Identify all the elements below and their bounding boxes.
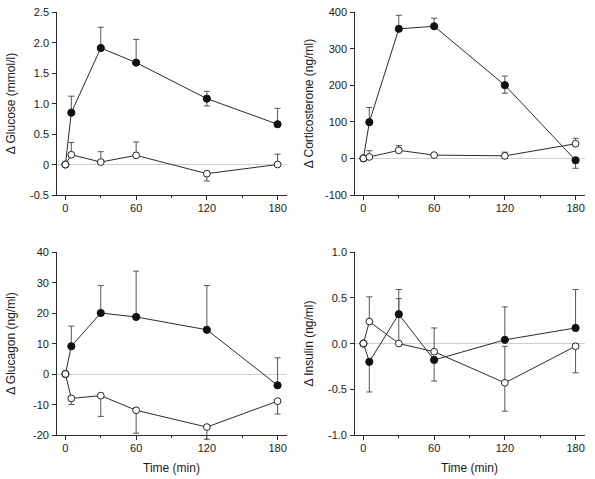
x-tick-label-glucose-1: 60 bbox=[130, 202, 142, 214]
y-tick-label-glucose-4: 1.5 bbox=[34, 67, 49, 79]
y-tick-label-insulin-0: -1.0 bbox=[328, 429, 347, 441]
x-tick-label-insulin-0: 0 bbox=[360, 442, 366, 454]
datapoint-insulin-open-4 bbox=[501, 379, 508, 386]
chart-svg-glucagon: -20-10010203040060120180Δ Glucagon (ng/m… bbox=[0, 240, 297, 479]
datapoint-insulin-open-0 bbox=[360, 340, 367, 347]
datapoint-glucose-filled-3 bbox=[133, 59, 140, 66]
y-tick-label-glucose-2: 0.5 bbox=[34, 128, 49, 140]
y-tick-label-glucose-0: -0.5 bbox=[30, 189, 49, 201]
datapoint-glucose-open-5 bbox=[274, 161, 281, 168]
datapoint-glucose-open-4 bbox=[203, 170, 210, 177]
x-tick-label-insulin-3: 180 bbox=[566, 442, 584, 454]
y-axis-title-glucose: Δ Glucose (mmol/l) bbox=[4, 53, 18, 154]
datapoint-glucagon-filled-2 bbox=[97, 309, 104, 316]
y-tick-label-glucagon-0: -20 bbox=[33, 429, 49, 441]
y-tick-label-corticosterone-2: 100 bbox=[329, 116, 347, 128]
x-tick-label-corticosterone-2: 120 bbox=[496, 202, 514, 214]
datapoint-glucagon-filled-4 bbox=[203, 326, 210, 333]
chart-svg-insulin: -1.0-0.50.00.51.0060120180Δ Insulin (ng/… bbox=[298, 240, 595, 479]
x-tick-label-glucagon-2: 120 bbox=[198, 442, 216, 454]
x-tick-label-glucose-2: 120 bbox=[198, 202, 216, 214]
y-tick-label-insulin-2: 0.0 bbox=[332, 338, 347, 350]
y-tick-label-glucagon-1: -10 bbox=[33, 399, 49, 411]
y-tick-label-glucagon-2: 0 bbox=[43, 368, 49, 380]
datapoint-insulin-filled-3 bbox=[431, 356, 438, 363]
x-tick-label-glucagon-1: 60 bbox=[130, 442, 142, 454]
datapoint-corticosterone-filled-5 bbox=[572, 157, 579, 164]
datapoint-glucagon-open-5 bbox=[274, 398, 281, 405]
x-tick-label-glucagon-3: 180 bbox=[268, 442, 286, 454]
datapoint-corticosterone-filled-1 bbox=[366, 119, 373, 126]
datapoint-glucagon-open-4 bbox=[203, 424, 210, 431]
y-tick-label-glucagon-3: 10 bbox=[37, 338, 49, 350]
datapoint-insulin-open-2 bbox=[395, 340, 402, 347]
y-tick-label-insulin-3: 0.5 bbox=[332, 292, 347, 304]
datapoint-glucose-open-3 bbox=[133, 152, 140, 159]
datapoint-glucose-open-1 bbox=[68, 151, 75, 158]
datapoint-glucagon-filled-3 bbox=[133, 313, 140, 320]
x-tick-label-insulin-2: 120 bbox=[496, 442, 514, 454]
y-tick-label-glucagon-5: 30 bbox=[37, 277, 49, 289]
datapoint-glucagon-open-2 bbox=[97, 392, 104, 399]
y-tick-label-glucose-6: 2.5 bbox=[34, 6, 49, 18]
x-tick-label-glucagon-0: 0 bbox=[62, 442, 68, 454]
y-tick-label-glucose-5: 2.0 bbox=[34, 37, 49, 49]
x-axis-title-glucagon: Time (min) bbox=[143, 461, 200, 475]
datapoint-insulin-open-5 bbox=[572, 343, 579, 350]
datapoint-insulin-filled-2 bbox=[395, 311, 402, 318]
x-axis-title-insulin: Time (min) bbox=[441, 461, 498, 475]
y-tick-label-glucagon-6: 40 bbox=[37, 246, 49, 258]
y-tick-label-corticosterone-1: 0 bbox=[341, 152, 347, 164]
datapoint-glucose-filled-4 bbox=[203, 95, 210, 102]
datapoint-insulin-filled-1 bbox=[366, 358, 373, 365]
y-tick-label-insulin-4: 1.0 bbox=[332, 246, 347, 258]
chart-panel-insulin: -1.0-0.50.00.51.0060120180Δ Insulin (ng/… bbox=[298, 240, 595, 479]
x-tick-label-glucose-0: 0 bbox=[62, 202, 68, 214]
datapoint-glucose-filled-1 bbox=[68, 109, 75, 116]
x-tick-label-corticosterone-1: 60 bbox=[428, 202, 440, 214]
figure-panel-grid: -0.500.51.01.52.02.5060120180Δ Glucose (… bbox=[0, 0, 595, 479]
x-tick-label-corticosterone-3: 180 bbox=[566, 202, 584, 214]
datapoint-glucose-open-2 bbox=[97, 159, 104, 166]
datapoint-corticosterone-filled-3 bbox=[431, 23, 438, 30]
datapoint-glucose-open-0 bbox=[62, 161, 69, 168]
y-tick-label-corticosterone-4: 300 bbox=[329, 43, 347, 55]
datapoint-glucagon-open-0 bbox=[62, 371, 69, 378]
y-tick-label-corticosterone-0: -100 bbox=[325, 189, 347, 201]
datapoint-insulin-open-3 bbox=[431, 348, 438, 355]
y-axis-title-glucagon: Δ Glucagon (ng/ml) bbox=[4, 292, 18, 395]
datapoint-glucagon-filled-1 bbox=[68, 343, 75, 350]
datapoint-insulin-filled-5 bbox=[572, 324, 579, 331]
x-tick-label-insulin-1: 60 bbox=[428, 442, 440, 454]
datapoint-corticosterone-open-1 bbox=[366, 154, 373, 161]
x-tick-label-corticosterone-0: 0 bbox=[360, 202, 366, 214]
y-tick-label-glucose-1: 0 bbox=[43, 159, 49, 171]
chart-panel-corticosterone: -1000100200300400060120180Δ Corticostero… bbox=[298, 0, 595, 239]
y-tick-label-corticosterone-3: 200 bbox=[329, 79, 347, 91]
chart-panel-glucagon: -20-10010203040060120180Δ Glucagon (ng/m… bbox=[0, 240, 297, 479]
series-line-glucose-filled bbox=[65, 48, 277, 165]
datapoint-corticosterone-open-5 bbox=[572, 140, 579, 147]
datapoint-insulin-open-1 bbox=[366, 318, 373, 325]
y-tick-label-glucose-3: 1.0 bbox=[34, 98, 49, 110]
series-line-glucagon-open bbox=[65, 374, 277, 427]
datapoint-glucagon-open-1 bbox=[68, 395, 75, 402]
x-tick-label-glucose-3: 180 bbox=[268, 202, 286, 214]
datapoint-glucose-filled-5 bbox=[274, 121, 281, 128]
datapoint-corticosterone-filled-2 bbox=[395, 25, 402, 32]
y-tick-label-corticosterone-5: 400 bbox=[329, 6, 347, 18]
datapoint-glucose-filled-2 bbox=[97, 44, 104, 51]
series-line-insulin-filled bbox=[363, 314, 575, 362]
y-axis-title-corticosterone: Δ Corticosterone (ng/ml) bbox=[302, 39, 316, 168]
chart-svg-corticosterone: -1000100200300400060120180Δ Corticostero… bbox=[298, 0, 595, 239]
datapoint-corticosterone-filled-4 bbox=[501, 82, 508, 89]
datapoint-glucagon-open-3 bbox=[133, 407, 140, 414]
chart-panel-glucose: -0.500.51.01.52.02.5060120180Δ Glucose (… bbox=[0, 0, 297, 239]
datapoint-corticosterone-open-2 bbox=[395, 147, 402, 154]
datapoint-corticosterone-open-4 bbox=[501, 152, 508, 159]
datapoint-corticosterone-open-3 bbox=[431, 152, 438, 159]
y-tick-label-glucagon-4: 20 bbox=[37, 307, 49, 319]
series-line-insulin-open bbox=[363, 322, 575, 383]
series-line-corticosterone-filled bbox=[363, 26, 575, 160]
chart-svg-glucose: -0.500.51.01.52.02.5060120180Δ Glucose (… bbox=[0, 0, 297, 239]
